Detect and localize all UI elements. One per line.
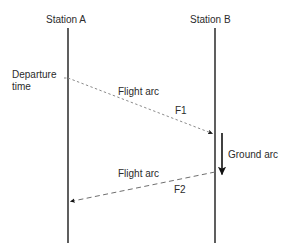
ground-arc-label: Ground arc (228, 149, 278, 161)
station-b-label: Station B (190, 14, 231, 26)
flight-timing-diagram: Station A Station B Departure time Fligh… (0, 0, 293, 251)
departure-time-label-line2: time (12, 81, 31, 93)
flight-arc-2-code-label: F2 (174, 184, 186, 196)
flight-arc-1-label: Flight arc (118, 86, 159, 98)
diagram-canvas (0, 0, 293, 251)
station-a-label: Station A (46, 14, 86, 26)
flight-arc-1-code-label: F1 (175, 105, 187, 117)
flight-arc-2-label: Flight arc (118, 168, 159, 180)
departure-time-label-line1: Departure (12, 69, 56, 81)
